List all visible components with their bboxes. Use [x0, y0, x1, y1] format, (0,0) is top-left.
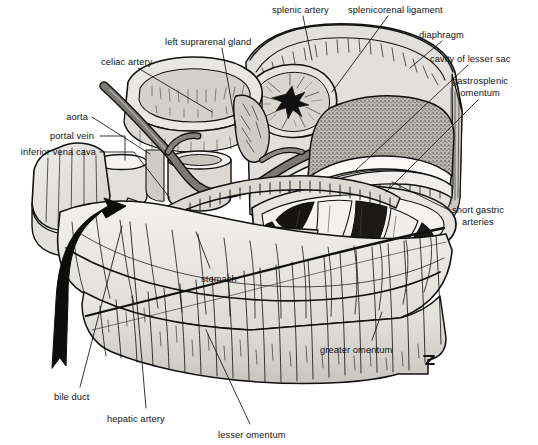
label-hepatic-artery: hepatic artery	[107, 414, 165, 425]
label-short-gastric-arteries: short gastric arteries	[452, 205, 504, 228]
label-portal-vein: portal vein	[0, 131, 94, 142]
label-gastrosplenic-omentum: gastrosplenic omentum	[452, 76, 508, 99]
label-left-suprarenal-gland: left suprarenal gland	[165, 37, 251, 48]
label-greater-omentum: greater omentum	[320, 345, 392, 356]
label-splenic-artery: splenic artery	[272, 5, 329, 16]
label-celiac-artery: celiac artery	[101, 57, 152, 68]
label-aorta: aorta	[0, 112, 88, 123]
label-inferior-vena-cava: inferior vena cava	[0, 147, 96, 158]
label-splenicorenal-ligament: splenicorenal ligament	[348, 5, 443, 16]
label-gastrosplenic-omentum-line2: omentum	[452, 88, 508, 100]
label-gastrosplenic-omentum-line1: gastrosplenic	[452, 76, 508, 88]
label-bile-duct: bile duct	[54, 392, 90, 403]
label-short-gastric-arteries-line1: short gastric	[452, 205, 504, 217]
label-diaphragm: diaphragm	[419, 30, 464, 41]
label-stomach: stomach	[201, 274, 237, 285]
label-lesser-omentum: lesser omentum	[218, 430, 286, 441]
anatomy-figure: splenic artery splenicorenal ligament le…	[0, 0, 538, 445]
label-short-gastric-arteries-line2: arteries	[452, 217, 504, 229]
label-cavity-of-lesser-sac: cavity of lesser sac	[430, 54, 511, 65]
